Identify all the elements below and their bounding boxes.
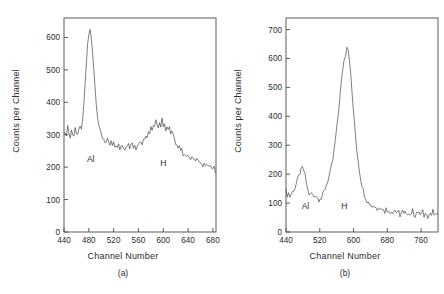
y-tick-label: 700 [268,26,282,35]
y-tick-label: 600 [268,54,282,63]
y-tick-label: 400 [268,112,282,121]
x-tick-label: 640 [181,236,195,245]
y-tick-label: 500 [268,83,282,92]
x-tick-label: 600 [156,236,170,245]
panel-a-xlabel: Channel Number [24,251,222,261]
plot-frame [64,18,216,232]
x-tick-label: 760 [414,236,428,245]
peak-label-al: Al [302,201,310,211]
y-tick-label: 600 [46,33,60,42]
panel-a-caption: (a) [24,268,222,278]
x-tick-label: 440 [57,236,71,245]
x-tick-label: 560 [132,236,146,245]
panel-b-ylabel-wrap: Counts per Channel [230,0,246,222]
panel-a-ylabel: Counts per Channel [11,69,21,153]
spectrum-trace [64,30,215,173]
panel-a-plot: 0100200300400500600440480520560600640680… [24,8,222,258]
panel-b-xlabel: Channel Number [246,251,444,261]
panel-b-plot: 0100200300400500600700440520600680760AlH [246,8,444,258]
y-tick-label: 200 [268,170,282,179]
peak-label-h: H [160,158,166,168]
panel-a-ylabel-wrap: Counts per Channel [8,0,24,222]
panel-b-caption: (b) [246,268,444,278]
panel-b: Counts per Channel 010020030040050060070… [222,0,444,294]
y-tick-label: 200 [46,163,60,172]
x-tick-label: 440 [279,236,293,245]
panel-a-svg: 0100200300400500600440480520560600640680… [24,8,222,258]
plot-frame [286,18,438,232]
panel-a: Counts per Channel 010020030040050060044… [0,0,222,294]
figure-root: Counts per Channel 010020030040050060044… [0,0,444,294]
x-tick-label: 520 [107,236,121,245]
peak-label-al: Al [87,154,95,164]
y-tick-label: 500 [46,66,60,75]
y-tick-label: 100 [268,199,282,208]
x-tick-label: 520 [313,236,327,245]
panel-b-ylabel: Counts per Channel [233,69,243,153]
x-tick-label: 600 [347,236,361,245]
y-tick-label: 300 [46,131,60,140]
x-tick-label: 680 [380,236,394,245]
y-tick-label: 300 [268,141,282,150]
peak-label-h: H [341,201,347,211]
x-tick-label: 480 [82,236,96,245]
spectrum-trace [286,47,438,218]
panel-b-svg: 0100200300400500600700440520600680760AlH [246,8,444,258]
x-tick-label: 680 [206,236,220,245]
y-tick-label: 100 [46,196,60,205]
y-tick-label: 400 [46,98,60,107]
